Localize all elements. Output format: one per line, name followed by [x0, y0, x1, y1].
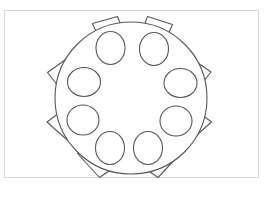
seat-head-8: [68, 68, 101, 97]
seat-head-5: [134, 132, 163, 165]
round-table-circle: [55, 22, 207, 174]
diagram-canvas: [0, 0, 274, 197]
seat-head-7: [67, 105, 99, 135]
seat-head-1: [96, 32, 125, 65]
round-table-diagram: [0, 0, 274, 197]
seat-head-4: [160, 106, 192, 136]
seat-head-3: [164, 69, 197, 98]
seat-head-2: [140, 33, 169, 66]
seat-head-6: [96, 132, 125, 165]
